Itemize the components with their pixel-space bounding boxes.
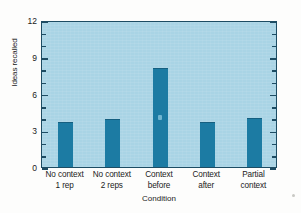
x-axis-tick-label-line: No context	[41, 170, 88, 181]
bar	[153, 68, 168, 167]
print-speck	[158, 115, 162, 120]
x-axis-tick-label-line: 1 rep	[41, 181, 88, 192]
x-axis-tick-label-line: before	[135, 181, 182, 192]
x-axis-tick-label-line: Partial	[230, 170, 277, 181]
x-axis-tick-label: No context1 rep	[41, 170, 88, 191]
y-axis-tick	[42, 156, 46, 158]
x-axis-title: Condition	[41, 194, 277, 203]
page-edge-mark	[292, 194, 295, 197]
chart-figure: Ideas recalled 036912 No context1 repNo …	[0, 0, 301, 213]
y-axis-tick	[42, 70, 46, 72]
y-axis-tick	[272, 34, 276, 36]
y-axis-tick	[272, 119, 276, 121]
y-axis-tick	[272, 156, 276, 158]
y-axis-tick	[42, 95, 48, 97]
y-axis-tick	[42, 58, 48, 60]
bar	[200, 122, 215, 167]
x-axis-tick-label: Partialcontext	[230, 170, 277, 191]
y-axis-tick	[272, 83, 276, 85]
y-axis-tick	[42, 119, 46, 121]
x-axis-tick-labels: No context1 repNo context2 repsContextbe…	[41, 170, 277, 194]
y-axis-tick-labels: 036912	[9, 21, 37, 168]
y-axis-tick	[270, 132, 276, 134]
y-axis-tick-label: 9	[11, 53, 37, 63]
y-axis-tick	[270, 21, 276, 23]
y-axis-tick	[270, 58, 276, 60]
x-axis-tick-label-line: Context	[135, 170, 182, 181]
x-axis-tick-label: Contextbefore	[135, 170, 182, 191]
y-axis-tick	[270, 95, 276, 97]
y-axis-tick	[42, 132, 48, 134]
y-axis-tick	[42, 21, 48, 23]
x-axis-tick-label: No context2 reps	[88, 170, 135, 191]
x-axis-tick-label-line: 2 reps	[88, 181, 135, 192]
y-axis-tick	[42, 107, 46, 109]
y-axis-tick	[272, 70, 276, 72]
y-axis-tick-label: 3	[11, 126, 37, 136]
y-axis-tick-label: 6	[11, 90, 37, 100]
bar	[58, 122, 73, 167]
y-axis-tick	[42, 46, 46, 48]
y-axis-tick-label: 12	[11, 16, 37, 26]
x-axis-tick-label-line: Context	[183, 170, 230, 181]
y-axis-tick	[272, 144, 276, 146]
y-axis-tick	[272, 107, 276, 109]
y-axis-tick-label: 0	[11, 163, 37, 173]
plot-area	[41, 21, 277, 168]
x-axis-tick-label-line: No context	[88, 170, 135, 181]
bar	[247, 118, 262, 167]
y-axis-tick	[42, 83, 46, 85]
y-axis-tick	[272, 46, 276, 48]
y-axis-tick	[42, 144, 46, 146]
bar	[105, 119, 120, 167]
y-axis-tick	[42, 34, 46, 36]
x-axis-tick-label-line: context	[230, 181, 277, 192]
x-axis-tick-label-line: after	[183, 181, 230, 192]
x-axis-tick-label: Contextafter	[183, 170, 230, 191]
